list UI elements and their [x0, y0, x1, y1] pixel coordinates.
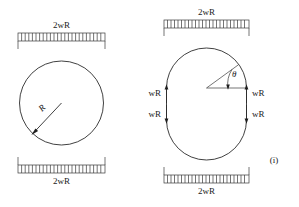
panel-stadium-ring: 2wR θ wR	[148, 7, 264, 196]
force-label-lower-right: wR	[252, 109, 265, 119]
figure-caption: (i)	[270, 155, 279, 165]
force-arrow-upper-left	[165, 84, 169, 103]
bottom-load-bar-left-panel	[18, 157, 105, 173]
engineering-figure: 2wR R	[0, 0, 299, 207]
force-arrow-lower-right	[245, 105, 249, 124]
stadium-outline	[167, 48, 247, 160]
force-label-upper-left: wR	[148, 88, 161, 98]
figure-canvas: 2wR R	[0, 0, 299, 207]
angle-theta-construction	[207, 65, 247, 90]
panel-circular-ring: 2wR R	[18, 20, 105, 186]
angle-theta-label: θ	[232, 69, 237, 79]
force-arrow-lower-left	[165, 105, 169, 124]
force-label-upper-right: wR	[252, 88, 265, 98]
radius-arrow	[31, 103, 61, 135]
bottom-load-bar-right-panel	[164, 167, 249, 183]
top-load-label-right-panel: 2wR	[198, 7, 215, 17]
force-arrow-upper-right	[245, 84, 249, 103]
bottom-load-label-left-panel: 2wR	[53, 176, 70, 186]
bottom-load-label-right-panel: 2wR	[198, 186, 215, 196]
force-label-lower-left: wR	[148, 109, 161, 119]
top-load-label-left-panel: 2wR	[53, 20, 70, 30]
radius-label: R	[36, 102, 48, 114]
top-load-bar-right-panel	[164, 20, 249, 36]
top-load-bar-left-panel	[18, 33, 105, 49]
